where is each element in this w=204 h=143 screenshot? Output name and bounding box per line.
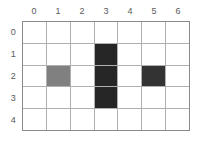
- column-label: 6: [166, 4, 190, 19]
- grid-row: [23, 66, 189, 88]
- grid-body: [22, 21, 190, 131]
- grid-cell-1-0[interactable]: [47, 22, 71, 43]
- grid-cell-4-2[interactable]: [118, 66, 142, 87]
- grid-cell-0-1[interactable]: [23, 44, 47, 65]
- row-label: 3: [2, 87, 19, 109]
- grid-cell-4-3[interactable]: [118, 87, 142, 108]
- row-label: 0: [2, 21, 19, 43]
- grid-cell-5-0[interactable]: [142, 22, 166, 43]
- row-header-labels: 01234: [2, 21, 19, 131]
- grid-cell-2-4[interactable]: [71, 109, 95, 130]
- grid-cell-3-0[interactable]: [95, 22, 119, 43]
- grid-cell-2-0[interactable]: [71, 22, 95, 43]
- column-label: 4: [118, 4, 142, 19]
- grid-cell-2-1[interactable]: [71, 44, 95, 65]
- grid-cell-5-1[interactable]: [142, 44, 166, 65]
- grid-cell-6-1[interactable]: [166, 44, 189, 65]
- grid-cell-5-2[interactable]: [142, 66, 166, 87]
- row-label: 1: [2, 43, 19, 65]
- grid-cell-3-3[interactable]: [95, 87, 119, 108]
- grid-cell-5-4[interactable]: [142, 109, 166, 130]
- column-label: 3: [94, 4, 118, 19]
- grid-cell-6-0[interactable]: [166, 22, 189, 43]
- grid-cell-4-4[interactable]: [118, 109, 142, 130]
- grid-cell-3-4[interactable]: [95, 109, 119, 130]
- grid-cell-1-4[interactable]: [47, 109, 71, 130]
- grid-cell-2-2[interactable]: [71, 66, 95, 87]
- column-label: 5: [142, 4, 166, 19]
- grid-cell-1-3[interactable]: [47, 87, 71, 108]
- grid-cell-4-0[interactable]: [118, 22, 142, 43]
- grid-cell-2-3[interactable]: [71, 87, 95, 108]
- column-label: 1: [46, 4, 70, 19]
- grid-cell-6-2[interactable]: [166, 66, 189, 87]
- grid-cell-0-4[interactable]: [23, 109, 47, 130]
- grid-row: [23, 87, 189, 109]
- grid-cell-1-1[interactable]: [47, 44, 71, 65]
- row-label: 2: [2, 65, 19, 87]
- column-header-labels: 0123456: [22, 4, 190, 19]
- grid-cell-6-4[interactable]: [166, 109, 189, 130]
- grid-cell-3-1[interactable]: [95, 44, 119, 65]
- grid-cell-5-3[interactable]: [142, 87, 166, 108]
- grid-figure: 0123456 01234: [0, 0, 204, 143]
- grid-cell-0-2[interactable]: [23, 66, 47, 87]
- grid-row: [23, 44, 189, 66]
- grid-row: [23, 109, 189, 130]
- grid-row: [23, 22, 189, 44]
- grid-cell-3-2[interactable]: [95, 66, 119, 87]
- grid-cell-4-1[interactable]: [118, 44, 142, 65]
- row-label: 4: [2, 109, 19, 131]
- grid-cell-1-2[interactable]: [47, 66, 71, 87]
- grid-cell-0-3[interactable]: [23, 87, 47, 108]
- grid-cell-0-0[interactable]: [23, 22, 47, 43]
- grid-cell-6-3[interactable]: [166, 87, 189, 108]
- column-label: 0: [22, 4, 46, 19]
- column-label: 2: [70, 4, 94, 19]
